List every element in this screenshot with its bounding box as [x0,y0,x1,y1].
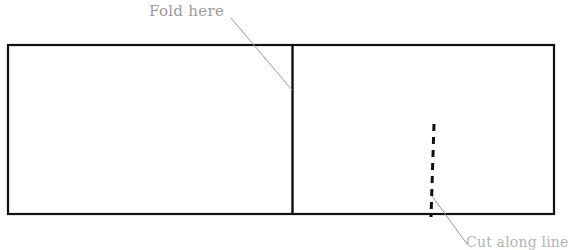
fold-here-label: Fold here [149,2,224,20]
cut-line-label: Cut along line [466,234,569,250]
paper-outline [8,45,554,214]
